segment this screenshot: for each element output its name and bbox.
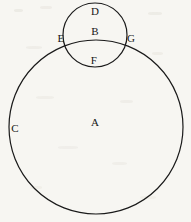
label-d: D (91, 6, 99, 17)
circle-diagram-figure: D B E G F A C (0, 0, 191, 222)
label-g: G (127, 33, 135, 44)
label-f: F (91, 55, 97, 66)
label-a: A (91, 117, 99, 128)
label-c: C (11, 123, 19, 134)
label-b: B (91, 26, 99, 37)
label-e: E (58, 33, 65, 44)
